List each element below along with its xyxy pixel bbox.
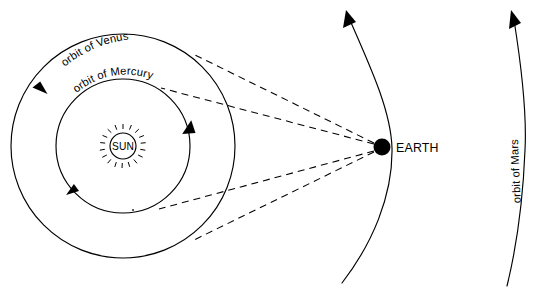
orbit-mercury-label: orbit of Mercury [0, 0, 206, 103]
sightline-venus-upper-tangent [193, 54, 374, 143]
sightline-venus-lower-tangent [192, 152, 374, 241]
diagram-canvas: orbit of Venus orbit of Mercury [0, 0, 543, 297]
orbit-mars-label: orbit of Mars [0, 0, 539, 204]
earth-disc [374, 139, 391, 156]
page-speck [132, 209, 134, 211]
sightlines-group [159, 54, 374, 241]
orbit-venus-label: orbit of Venus [0, 0, 233, 68]
sightline-mercury-lower-tangent [159, 151, 374, 209]
orbit-mars-group: orbit of Mars [0, 0, 539, 286]
orbit-mercury-group: orbit of Mercury [0, 0, 206, 213]
orbit-diagram: orbit of Venus orbit of Mercury [0, 0, 543, 297]
orbit-earth-direction-arrow [343, 10, 356, 28]
sun-label: SUN [112, 141, 134, 152]
orbit-venus-group: orbit of Venus [0, 0, 235, 258]
earth-label: EARTH [396, 141, 439, 155]
earth-group: EARTH [374, 139, 439, 156]
orbit-venus-direction-arrow [31, 81, 47, 98]
sun-group: SUN [100, 124, 146, 168]
orbit-mercury-direction-arrow-upper [182, 119, 197, 136]
